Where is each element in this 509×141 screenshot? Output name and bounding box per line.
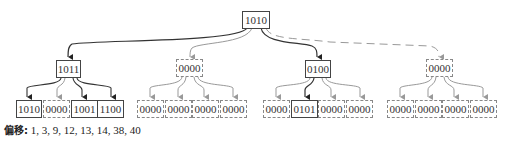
offset-values: 1, 3, 9, 12, 13, 14, 38, 40 [31,124,141,136]
leaf-node: 1100 [97,100,124,118]
leaf-node: 0000 [470,100,497,118]
leaf-node: 0000 [220,100,247,118]
leaf-node: 1010 [16,100,42,118]
leaf-node: 0000 [192,100,219,118]
offset-label: 偏移: [4,125,28,136]
leaf-node: 0000 [137,100,164,118]
leaf-node: 1001 [71,100,98,118]
leaf-node: 0000 [387,100,414,118]
level1-node-3: 0100 [305,60,331,78]
leaf-node: 0000 [415,100,442,118]
root-node: 1010 [242,11,270,29]
bitmap-tree-diagram: 1010 1011 0000 0100 0000 1010 0000 1001 … [0,0,509,141]
leaf-node: 0101 [291,100,318,118]
leaf-node: 0000 [165,100,192,118]
leaf-node: 0000 [346,100,373,118]
level1-node-1: 1011 [56,60,81,78]
level1-node-2: 0000 [176,59,203,77]
leaf-node: 0000 [318,100,345,118]
offset-caption: 偏移: 1, 3, 9, 12, 13, 14, 38, 40 [4,122,141,137]
level1-node-4: 0000 [426,59,453,77]
leaf-node: 0000 [43,100,70,118]
leaf-node: 0000 [442,100,469,118]
leaf-node: 0000 [263,100,290,118]
